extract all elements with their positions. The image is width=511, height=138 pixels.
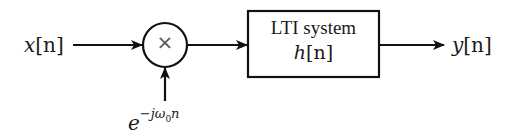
input-signal-label: x[n] xyxy=(24,33,64,57)
output-signal-label: y[n] xyxy=(452,33,492,57)
block-title: LTI system xyxy=(248,17,379,39)
modulating-exponential-label: e−jω0n xyxy=(128,110,179,135)
impulse-response-label: h[n] xyxy=(248,41,379,63)
multiply-icon: × xyxy=(154,30,176,54)
